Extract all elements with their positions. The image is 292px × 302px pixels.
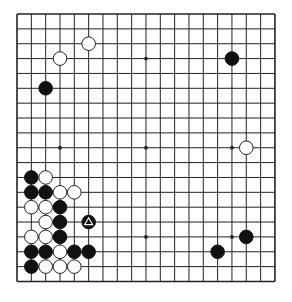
white-stone[interactable] (25, 230, 39, 244)
white-stone[interactable] (39, 230, 53, 244)
black-stone[interactable] (68, 245, 82, 259)
black-stone[interactable] (225, 52, 239, 66)
stones (25, 37, 254, 274)
black-stone[interactable] (25, 245, 39, 259)
star-point (144, 146, 148, 150)
black-stone[interactable] (53, 230, 67, 244)
white-stone[interactable] (53, 186, 67, 200)
star-point (58, 146, 62, 150)
white-stone[interactable] (53, 52, 67, 66)
white-stone[interactable] (39, 260, 53, 274)
star-point (230, 235, 234, 239)
black-stone[interactable] (39, 245, 53, 259)
go-board-canvas[interactable] (0, 0, 292, 302)
black-stone[interactable] (53, 200, 67, 214)
black-stone[interactable] (25, 171, 39, 185)
star-point (144, 235, 148, 239)
black-stone[interactable] (239, 230, 253, 244)
black-stone[interactable] (25, 186, 39, 200)
go-board[interactable] (0, 0, 292, 302)
black-stone[interactable] (82, 215, 96, 229)
star-point (144, 57, 148, 61)
white-stone[interactable] (25, 200, 39, 214)
black-stone[interactable] (53, 215, 67, 229)
black-stone[interactable] (39, 82, 53, 96)
white-stone[interactable] (82, 37, 96, 51)
black-stone[interactable] (211, 245, 225, 259)
white-stone[interactable] (53, 260, 67, 274)
black-stone[interactable] (39, 186, 53, 200)
white-stone[interactable] (68, 260, 82, 274)
white-stone[interactable] (239, 141, 253, 155)
black-stone[interactable] (82, 245, 96, 259)
white-stone[interactable] (39, 215, 53, 229)
black-stone[interactable] (25, 260, 39, 274)
white-stone[interactable] (53, 245, 67, 259)
star-point (230, 146, 234, 150)
white-stone[interactable] (68, 186, 82, 200)
white-stone[interactable] (39, 171, 53, 185)
white-stone[interactable] (39, 200, 53, 214)
